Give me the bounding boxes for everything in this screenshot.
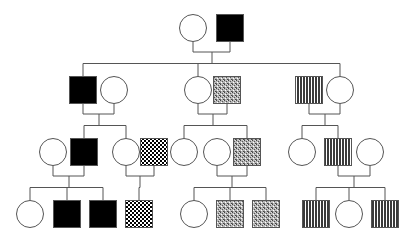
male-symbol-checker bbox=[126, 201, 153, 228]
female-symbol-unaffected bbox=[357, 139, 384, 166]
female-symbol-unaffected bbox=[17, 201, 44, 228]
pedigree-connectors bbox=[30, 42, 385, 201]
male-symbol-striped bbox=[372, 201, 399, 228]
male-symbol-striped bbox=[325, 139, 352, 166]
female-symbol-unaffected bbox=[327, 77, 354, 104]
female-symbol-unaffected bbox=[336, 201, 363, 228]
female-symbol-unaffected bbox=[40, 139, 67, 166]
male-symbol-striped bbox=[303, 201, 330, 228]
female-symbol-unaffected bbox=[171, 139, 198, 166]
male-symbol-checker bbox=[141, 139, 168, 166]
male-symbol-striped bbox=[296, 77, 323, 104]
female-symbol-unaffected bbox=[181, 201, 208, 228]
male-symbol-dotted bbox=[214, 77, 241, 104]
male-symbol-solid bbox=[71, 139, 98, 166]
pedigree-chart bbox=[0, 0, 414, 243]
male-symbol-dotted bbox=[253, 201, 280, 228]
female-symbol-unaffected bbox=[180, 15, 207, 42]
male-symbol-solid bbox=[90, 201, 117, 228]
female-symbol-unaffected bbox=[289, 139, 316, 166]
male-symbol-dotted bbox=[217, 201, 244, 228]
female-symbol-unaffected bbox=[113, 139, 140, 166]
female-symbol-unaffected bbox=[204, 139, 231, 166]
female-symbol-unaffected bbox=[185, 77, 212, 104]
female-symbol-unaffected bbox=[101, 77, 128, 104]
pedigree-symbols bbox=[17, 15, 399, 228]
male-symbol-dotted bbox=[234, 139, 261, 166]
male-symbol-solid bbox=[217, 15, 244, 42]
male-symbol-solid bbox=[70, 77, 97, 104]
male-symbol-solid bbox=[54, 201, 81, 228]
